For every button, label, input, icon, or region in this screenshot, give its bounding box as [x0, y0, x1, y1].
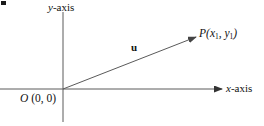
origin-coordinates: (0, 0)	[28, 92, 56, 104]
vector-u-arrow	[63, 37, 196, 89]
x-axis-label: x-axis	[226, 83, 252, 94]
corner-mark	[1, 1, 6, 5]
point-p-label: P(x1, y1)	[199, 28, 237, 40]
point-p-letter: P	[199, 27, 206, 39]
point-p-y-subscript: 1	[230, 32, 234, 41]
y-axis-label-suffix: -axis	[53, 1, 74, 13]
point-p-x-subscript: 1	[215, 32, 219, 41]
origin-label: O (0, 0)	[20, 93, 56, 105]
y-axis-label: y-axis	[48, 2, 74, 13]
x-axis-label-suffix: -axis	[231, 82, 252, 94]
vector-diagram: y-axis x-axis P(x1, y1) O (0, 0) u	[0, 0, 264, 126]
point-p-close-paren: )	[233, 27, 237, 39]
point-p-y-variable: y	[224, 27, 229, 39]
diagram-canvas	[0, 0, 264, 126]
vector-u-label: u	[131, 42, 137, 53]
